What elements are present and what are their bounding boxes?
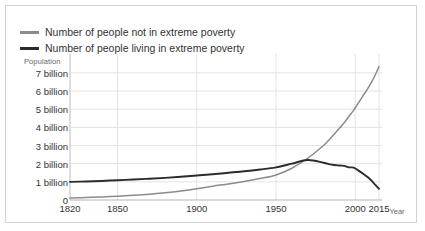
y-axis-tick-label: 3 billion — [14, 140, 68, 151]
y-axis-tick-labels: 01 billion2 billion3 billion4 billion5 b… — [14, 0, 68, 231]
x-axis-title: Year — [389, 207, 404, 216]
y-axis-tick-label: 4 billion — [14, 122, 68, 133]
x-axis-tick-label: 1850 — [107, 203, 128, 214]
data-line-series-0 — [70, 67, 379, 198]
x-axis-tick-label: 1900 — [186, 203, 207, 214]
x-axis-tick-label: 2000 — [345, 203, 366, 214]
y-axis-tick-label: 1 billion — [14, 176, 68, 187]
chart-plot-area: 01 billion2 billion3 billion4 billion5 b… — [0, 0, 425, 231]
y-axis-tick-label: 6 billion — [14, 86, 68, 97]
x-axis-tick-label: 2015 — [368, 203, 389, 214]
x-axis-tick-label: 1950 — [265, 203, 286, 214]
x-axis-tick-label: 1820 — [59, 203, 80, 214]
y-axis-tick-label: 5 billion — [14, 104, 68, 115]
y-axis-tick-label: 2 billion — [14, 158, 68, 169]
y-axis-tick-label: 7 billion — [14, 67, 68, 78]
x-axis-tick-labels: 182018501900195020002015 — [0, 203, 425, 219]
